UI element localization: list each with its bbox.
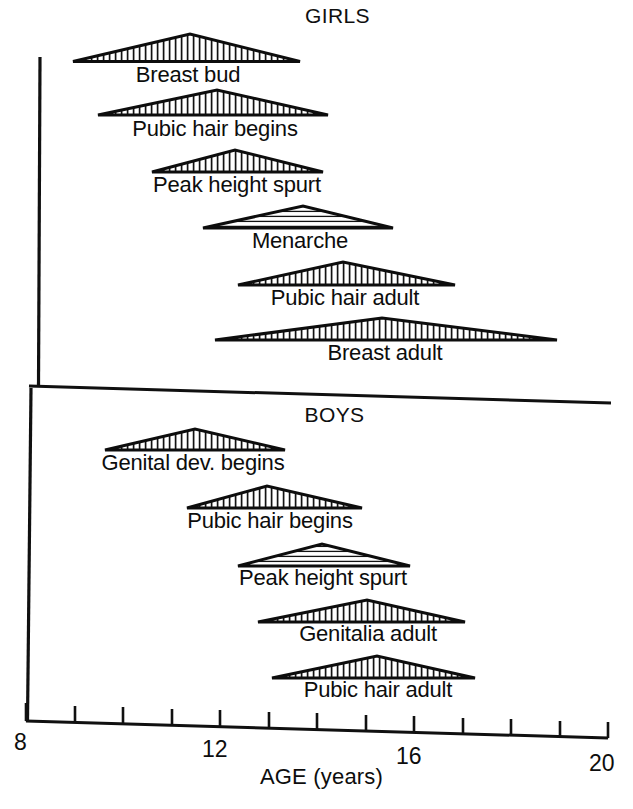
boys-vertical-axis — [28, 388, 32, 722]
girls-vertical-axis — [39, 57, 41, 386]
puberty-sequence-chart: GIRLS BOYS Breast bud Pubic hair begins … — [0, 0, 633, 809]
label-girls-peak-height-spurt: Peak height spurt — [153, 172, 321, 198]
label-girls-breast-adult: Breast adult — [327, 340, 442, 366]
label-boys-peak-height-spurt: Peak height spurt — [239, 565, 407, 591]
label-boys-pubic-hair-begins: Pubic hair begins — [187, 508, 352, 534]
label-girls-pubic-hair-adult: Pubic hair adult — [271, 285, 419, 311]
boys-section-title: BOYS — [0, 403, 633, 427]
x-tick-label-8: 8 — [14, 729, 27, 756]
triangle-boys-pubic-hair-adult — [272, 656, 475, 678]
triangle-girls-menarche — [203, 206, 393, 228]
triangle-girls-pubic-hair-adult — [238, 262, 455, 285]
triangle-girls-peak-height-spurt — [152, 150, 323, 172]
triangle-girls-breast-bud — [73, 34, 300, 62]
triangle-girls-pubic-hair-begins — [98, 90, 328, 115]
x-axis-title: AGE (years) — [0, 764, 633, 790]
label-boys-genital-dev-begins: Genital dev. begins — [102, 450, 285, 476]
label-girls-breast-bud: Breast bud — [136, 62, 240, 88]
triangle-boys-pubic-hair-begins — [187, 486, 362, 508]
triangle-girls-breast-adult — [215, 318, 557, 340]
triangle-boys-peak-height-spurt — [238, 544, 410, 566]
x-axis-ticks — [26, 703, 608, 738]
label-boys-genitalia-adult: Genitalia adult — [299, 621, 437, 647]
girls-section-title: GIRLS — [0, 4, 633, 28]
label-boys-pubic-hair-adult: Pubic hair adult — [304, 677, 452, 703]
label-girls-menarche: Menarche — [252, 228, 348, 254]
section-divider — [29, 386, 611, 403]
triangle-boys-genital-dev-begins — [105, 429, 285, 450]
label-girls-pubic-hair-begins: Pubic hair begins — [132, 116, 297, 142]
x-tick-label-12: 12 — [202, 736, 228, 763]
triangle-boys-genitalia-adult — [258, 600, 465, 622]
